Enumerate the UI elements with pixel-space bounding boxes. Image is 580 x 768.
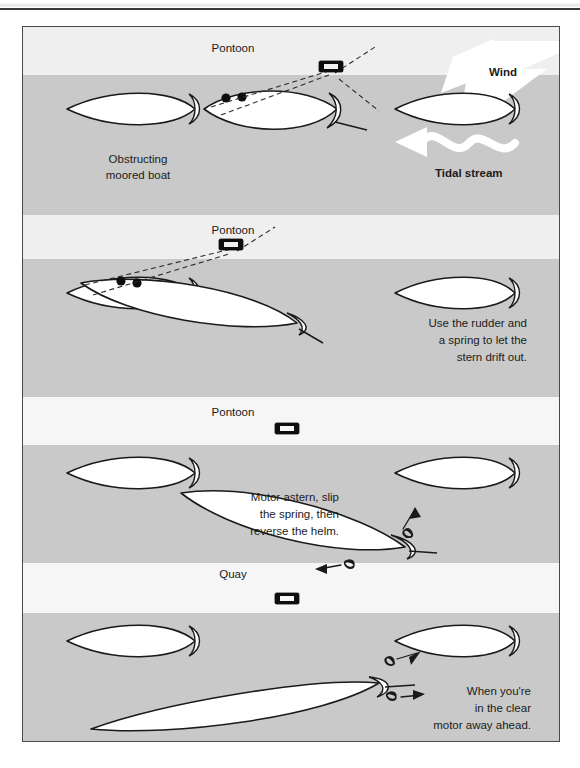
panel-2-instruction: Use the rudder and a spring to let the s… <box>353 315 527 366</box>
panel-2-structure-label: Pontoon <box>173 223 293 238</box>
tidal-stream-arrow <box>395 127 515 157</box>
panel-2-instruction-line-1: Use the rudder and <box>353 315 527 332</box>
wind-label: Wind <box>489 65 517 80</box>
panel-3-prop-wash-arrow-lower <box>315 560 354 574</box>
panel-4-instruction-line-3: motor away ahead. <box>353 717 531 734</box>
panel-2-own-boat <box>81 276 323 343</box>
panel-2-instruction-line-3: stern drift out. <box>353 349 527 366</box>
panel-3-moored-boat-left <box>67 457 200 489</box>
header-rule <box>0 8 580 10</box>
panel-3-cleat <box>275 423 299 434</box>
panel-2-instruction-line-2: a spring to let the <box>353 332 527 349</box>
panel-3-instruction-line-3: reverse the helm. <box>169 523 339 540</box>
panel-3-structure-label: Pontoon <box>173 405 293 420</box>
panel-3-instruction-line-1: Motor astern, slip <box>169 489 339 506</box>
panel-1-structure-label: Pontoon <box>173 41 293 56</box>
obstructing-label-line-1: Obstructing <box>63 151 213 167</box>
diagram-frame: Pontoon Obstructing moored boat Wind Tid… <box>22 26 560 742</box>
panel-4-instruction-line-1: When you're <box>353 683 531 700</box>
panel-3-instruction-line-2: the spring, then <box>169 506 339 523</box>
diagram-artwork <box>23 27 559 741</box>
panel-1-own-boat <box>204 91 367 130</box>
panel-4-instruction-line-2: in the clear <box>353 700 531 717</box>
panel-4-instruction: When you're in the clear motor away ahea… <box>353 683 531 734</box>
panel-2-moored-boat-right <box>395 277 520 309</box>
panel-4-moored-boat-left <box>67 625 200 657</box>
panel-3-moored-boat-right <box>395 457 520 489</box>
panel-4-structure-label: Quay <box>173 567 293 582</box>
page-top-fade <box>0 0 580 7</box>
panel-4-cleat <box>275 593 299 604</box>
obstructing-label-line-2: moored boat <box>63 167 213 183</box>
panel-1-moored-boat-left <box>67 93 200 125</box>
panel-4-moored-boat-right <box>395 625 520 657</box>
tidal-stream-label: Tidal stream <box>435 166 503 181</box>
panel-4-prop-wash-arrow-upper <box>384 651 421 668</box>
obstructing-moored-boat-label: Obstructing moored boat <box>63 151 213 183</box>
panel-3-instruction: Motor astern, slip the spring, then reve… <box>169 489 339 540</box>
panel-3-prop-wash-arrow-upper <box>402 507 421 540</box>
